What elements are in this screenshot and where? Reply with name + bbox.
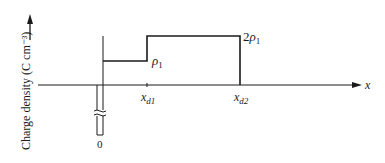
break-symbol-top	[94, 110, 106, 112]
charge-density-diagram: Charge density (C cm⁻³) x 0 ρ1 2ρ1 xd1 x…	[0, 0, 385, 163]
break-symbol-bottom	[94, 114, 106, 116]
xd1-label: xd1	[140, 90, 155, 106]
origin-label: 0	[97, 138, 103, 150]
rho1-label: ρ1	[151, 53, 163, 70]
y-axis-arrow-icon	[27, 14, 33, 24]
two-rho1-label: 2ρ1	[243, 29, 260, 46]
x-axis-label: x	[364, 78, 371, 92]
x-axis-arrow-icon	[352, 82, 362, 88]
y-axis-label: Charge density (C cm⁻³)	[19, 32, 33, 150]
xd2-label: xd2	[233, 90, 249, 106]
charge-density-profile	[103, 36, 240, 85]
